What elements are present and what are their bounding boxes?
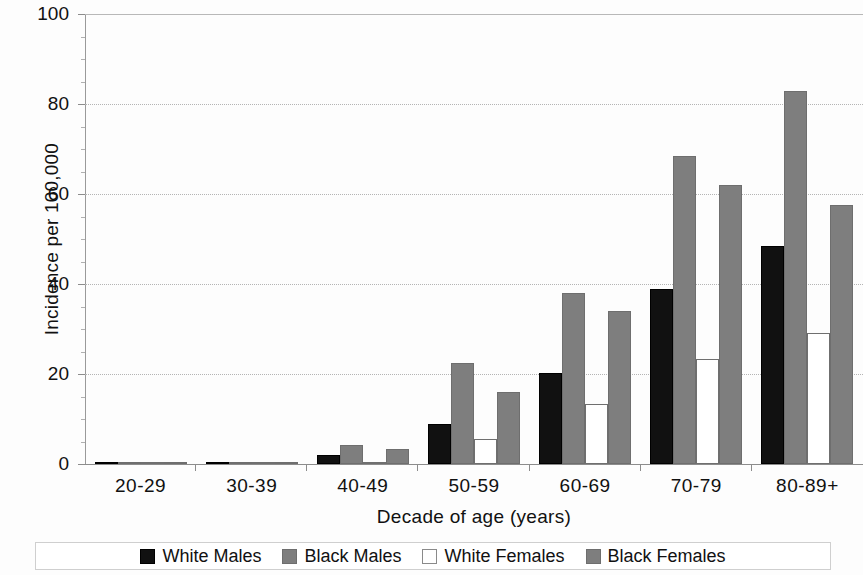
bar[interactable] xyxy=(807,333,830,464)
legend-swatch-icon xyxy=(422,549,437,564)
y-axis-tick xyxy=(78,464,85,465)
x-axis-title: Decade of age (years) xyxy=(85,506,863,528)
bar[interactable] xyxy=(719,185,742,464)
x-axis-tick-label: 80-89+ xyxy=(752,475,863,497)
bar-groups xyxy=(85,14,863,464)
bar[interactable] xyxy=(275,462,298,464)
y-axis-tick-label: 60 xyxy=(5,184,69,203)
bar[interactable] xyxy=(386,449,409,464)
bar-group xyxy=(418,14,529,464)
bar-group xyxy=(641,14,752,464)
bar-group xyxy=(196,14,307,464)
legend-item[interactable]: Black Males xyxy=(282,546,401,567)
x-axis-group-tick xyxy=(751,464,752,471)
x-axis-group-tick xyxy=(640,464,641,471)
x-axis-group-tick xyxy=(417,464,418,471)
y-axis-tick-label: 100 xyxy=(5,4,69,23)
y-axis-tick-label: 40 xyxy=(5,274,69,293)
y-axis-tick-label: 20 xyxy=(5,364,69,383)
x-axis-line xyxy=(85,464,863,465)
legend-item[interactable]: White Males xyxy=(140,546,261,567)
bar-group xyxy=(530,14,641,464)
bar[interactable] xyxy=(784,91,807,464)
bar[interactable] xyxy=(428,424,451,464)
bar-group-bars xyxy=(307,14,418,464)
y-axis-tick-label: 0 xyxy=(5,454,69,473)
x-axis-group-tick xyxy=(195,464,196,471)
bar-group-bars xyxy=(85,14,196,464)
bar[interactable] xyxy=(585,404,608,464)
bar-group xyxy=(85,14,196,464)
bar[interactable] xyxy=(252,462,275,464)
legend-label: White Males xyxy=(162,546,261,567)
bar[interactable] xyxy=(206,462,229,464)
legend-label: White Females xyxy=(444,546,564,567)
bar[interactable] xyxy=(650,289,673,464)
legend-label: Black Females xyxy=(608,546,726,567)
legend-item[interactable]: White Females xyxy=(422,546,564,567)
legend-label: Black Males xyxy=(304,546,401,567)
bar[interactable] xyxy=(761,246,784,464)
legend-swatch-icon xyxy=(586,549,601,564)
x-axis-tick-label: 60-69 xyxy=(530,475,641,497)
bar[interactable] xyxy=(608,311,631,464)
x-axis-tick-label: 50-59 xyxy=(418,475,529,497)
legend-item[interactable]: Black Females xyxy=(586,546,726,567)
x-axis-tick-label: 70-79 xyxy=(641,475,752,497)
bar-group-bars xyxy=(418,14,529,464)
y-axis-tick xyxy=(78,284,85,285)
chart-legend: White MalesBlack MalesWhite FemalesBlack… xyxy=(35,542,831,570)
y-axis-title: Incidence per 100,000 xyxy=(41,69,63,409)
bar[interactable] xyxy=(474,439,497,464)
bar[interactable] xyxy=(696,359,719,464)
bar[interactable] xyxy=(562,293,585,464)
bar-group xyxy=(307,14,418,464)
bar[interactable] xyxy=(340,445,363,464)
bar-group-bars xyxy=(641,14,752,464)
x-axis-tick-label: 30-39 xyxy=(196,475,307,497)
bar[interactable] xyxy=(141,462,164,464)
bar[interactable] xyxy=(118,462,141,464)
bar-group-bars xyxy=(196,14,307,464)
bar[interactable] xyxy=(317,455,340,464)
x-axis-group-tick xyxy=(306,464,307,471)
y-axis-tick xyxy=(78,14,85,15)
bar[interactable] xyxy=(830,205,853,464)
y-axis-tick-label: 80 xyxy=(5,94,69,113)
plot-area: 020406080100 xyxy=(85,14,863,464)
bar-group xyxy=(752,14,863,464)
bar[interactable] xyxy=(229,462,252,464)
bar[interactable] xyxy=(451,363,474,464)
bar[interactable] xyxy=(95,462,118,464)
x-axis-group-tick xyxy=(529,464,530,471)
bar[interactable] xyxy=(164,462,187,464)
y-axis-tick xyxy=(78,194,85,195)
y-axis-tick xyxy=(78,104,85,105)
legend-swatch-icon xyxy=(282,549,297,564)
bar-chart-figure: Incidence per 100,000 020406080100 20-29… xyxy=(0,0,863,575)
bar[interactable] xyxy=(497,392,520,464)
legend-swatch-icon xyxy=(140,549,155,564)
x-axis-tick-labels: 20-2930-3940-4950-5960-6970-7980-89+ xyxy=(85,475,863,497)
bar[interactable] xyxy=(363,462,386,464)
x-axis-tick-label: 40-49 xyxy=(307,475,418,497)
x-axis-tick-label: 20-29 xyxy=(85,475,196,497)
bar-group-bars xyxy=(752,14,863,464)
y-axis-tick xyxy=(78,374,85,375)
bar[interactable] xyxy=(673,156,696,464)
bar[interactable] xyxy=(539,373,562,464)
bar-group-bars xyxy=(530,14,641,464)
